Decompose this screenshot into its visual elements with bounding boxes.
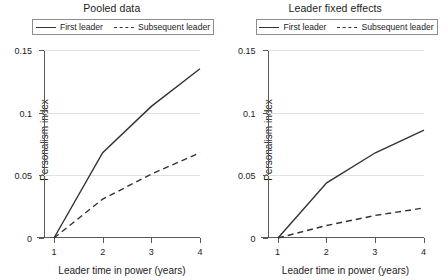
x-tick-label: 3 [372,247,377,257]
series-lines-right [268,50,424,238]
y-tick-label: 0.15 [14,46,32,56]
panel-pooled-data: Pooled data First leader Subsequent lead… [0,0,224,280]
x-tick-2 [326,238,327,243]
plot-area-left: 0.15 0.1 0.05 0 1 2 3 4 [44,50,200,238]
x-tick-label: 2 [324,247,329,257]
x-tick-2 [103,238,104,243]
y-tick-0: 0 [39,238,44,239]
y-tick-label: 0 [27,234,32,244]
y-tick-label: 0.1 [19,109,32,119]
legend-label-first-leader: First leader [60,22,103,32]
x-tick-label: 3 [149,247,154,257]
series-lines-left [44,50,200,238]
legend-entry-subsequent-leader: Subsequent leader [337,22,433,32]
series-first-leader-line [278,130,424,238]
x-tick-4 [424,238,425,243]
x-tick-label: 4 [421,247,426,257]
x-tick-1 [54,238,55,243]
x-axis-title: Leader time in power (years) [268,265,424,276]
series-first-leader-line [54,69,200,238]
solid-line-swatch-icon [36,23,56,32]
x-tick-label: 1 [275,247,280,257]
x-axis-title: Leader time in power (years) [44,265,200,276]
x-tick-3 [375,238,376,243]
y-tick-label: 0 [250,234,255,244]
legend: First leader Subsequent leader [256,19,438,35]
legend: First leader Subsequent leader [32,19,214,35]
panel-title: Leader fixed effects [224,2,447,14]
y-tick-label: 0.1 [243,109,256,119]
solid-line-swatch-icon [259,23,279,32]
panel-title: Pooled data [0,2,224,14]
y-tick-label: 0.05 [238,171,256,181]
legend-entry-first-leader: First leader [36,22,103,32]
legend-entry-subsequent-leader: Subsequent leader [114,22,210,32]
x-tick-1 [278,238,279,243]
plot-area-right: 0.15 0.1 0.05 0 1 2 3 4 [268,50,424,238]
x-tick-label: 4 [197,247,202,257]
two-panel-line-chart-figure: Pooled data First leader Subsequent lead… [0,0,447,280]
legend-label-first-leader: First leader [283,22,326,32]
dashed-line-swatch-icon [337,23,357,32]
y-tick-label: 0.05 [14,171,32,181]
x-tick-label: 2 [100,247,105,257]
x-tick-3 [151,238,152,243]
dashed-line-swatch-icon [114,23,134,32]
series-subsequent-leader-line [54,153,200,238]
panel-leader-fixed-effects: Leader fixed effects First leader Subseq… [224,0,447,280]
legend-entry-first-leader: First leader [259,22,326,32]
x-tick-label: 1 [51,247,56,257]
x-tick-4 [200,238,201,243]
y-tick-0: 0 [263,238,268,239]
y-tick-label: 0.15 [238,46,256,56]
legend-label-subsequent-leader: Subsequent leader [361,22,433,32]
legend-label-subsequent-leader: Subsequent leader [138,22,210,32]
